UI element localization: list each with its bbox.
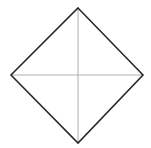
diagram-canvas <box>0 0 151 148</box>
diamond-diagram <box>0 0 151 148</box>
